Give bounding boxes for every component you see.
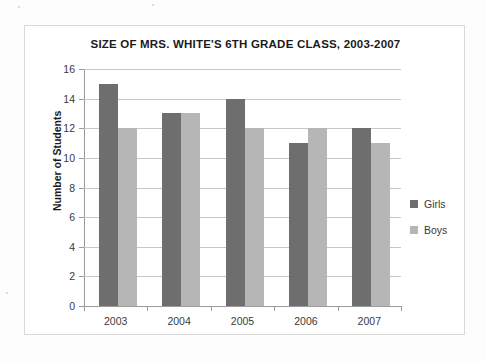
x-axis-tick-label-2003: 2003 <box>104 315 127 327</box>
y-axis-title: Number of Students <box>51 111 63 211</box>
y-axis-tick-label: 8 <box>69 182 75 194</box>
x-axis-tick <box>211 306 212 311</box>
y-axis-tick <box>79 188 84 189</box>
bar-group-2003 <box>99 69 137 306</box>
scan-artifact <box>152 4 154 6</box>
x-axis-tick-label-2007: 2007 <box>358 315 381 327</box>
legend-entry-girls[interactable]: Girls <box>410 198 470 210</box>
scan-artifact <box>18 6 20 8</box>
y-axis-tick-label: 10 <box>63 152 75 164</box>
bar-boys-2004[interactable] <box>181 113 200 306</box>
bar-group-2004 <box>162 69 200 306</box>
x-axis-tick <box>274 306 275 311</box>
gridline <box>84 306 401 307</box>
y-axis-tick <box>79 69 84 70</box>
y-axis-tick-label: 16 <box>63 63 75 75</box>
legend-label: Boys <box>424 224 447 236</box>
chart-frame: SIZE OF MRS. WHITE'S 6TH GRADE CLASS, 20… <box>24 25 465 335</box>
y-axis-tick-label: 2 <box>69 270 75 282</box>
screenshot-root: SIZE OF MRS. WHITE'S 6TH GRADE CLASS, 20… <box>0 0 486 362</box>
bar-girls-2003[interactable] <box>99 84 118 306</box>
legend-entry-boys[interactable]: Boys <box>410 224 470 236</box>
y-axis-tick <box>79 276 84 277</box>
y-axis-tick <box>79 217 84 218</box>
bar-girls-2004[interactable] <box>162 113 181 306</box>
y-axis-tick <box>79 158 84 159</box>
y-axis-tick <box>79 99 84 100</box>
legend-label: Girls <box>424 198 446 210</box>
bar-group-2006 <box>289 69 327 306</box>
x-axis-tick <box>84 306 85 311</box>
x-axis-tick-label-2006: 2006 <box>294 315 317 327</box>
y-axis-tick <box>79 128 84 129</box>
y-axis-tick-label: 6 <box>69 211 75 223</box>
x-axis-tick <box>338 306 339 311</box>
bar-girls-2005[interactable] <box>226 99 245 306</box>
bar-boys-2003[interactable] <box>118 128 137 306</box>
scan-artifact <box>6 292 8 294</box>
y-axis-tick-label: 4 <box>69 241 75 253</box>
y-axis-tick-label: 0 <box>69 300 75 312</box>
x-axis-tick <box>401 306 402 311</box>
y-axis-tick-label: 12 <box>63 122 75 134</box>
chart-title: SIZE OF MRS. WHITE'S 6TH GRADE CLASS, 20… <box>25 38 466 50</box>
bar-group-2007 <box>352 69 390 306</box>
bar-group-2005 <box>226 69 264 306</box>
legend-swatch-boys-icon <box>410 226 418 234</box>
plot-area: 0246810121416 20032004200520062007 <box>84 69 401 306</box>
bar-girls-2007[interactable] <box>352 128 371 306</box>
bar-girls-2006[interactable] <box>289 143 308 306</box>
y-axis-tick-label: 14 <box>63 93 75 105</box>
bar-boys-2007[interactable] <box>371 143 390 306</box>
x-axis-tick-label-2005: 2005 <box>231 315 254 327</box>
y-axis-tick <box>79 247 84 248</box>
bar-boys-2005[interactable] <box>245 128 264 306</box>
x-axis-tick-label-2004: 2004 <box>167 315 190 327</box>
x-axis-tick <box>147 306 148 311</box>
chart-legend: GirlsBoys <box>410 198 470 250</box>
bar-boys-2006[interactable] <box>308 128 327 306</box>
legend-swatch-girls-icon <box>410 200 418 208</box>
